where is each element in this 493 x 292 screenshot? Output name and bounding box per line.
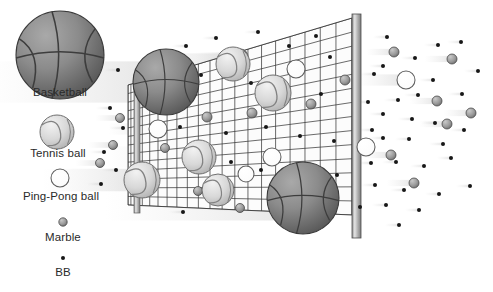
marble-icon [466,108,476,118]
motion-trail [369,113,383,116]
bb-icon [259,168,263,172]
bb-icon [184,44,188,48]
marble-icon [432,96,442,106]
bb-icon [319,92,323,96]
motion-trail [384,99,398,102]
ping-pong-ball-icon [263,148,281,166]
bb-icon [61,256,65,260]
motion-trail [96,107,110,110]
ping-pong-ball-icon [287,60,305,78]
motion-trail [369,137,383,140]
legend-glyphs [16,11,104,260]
marble-icon [236,204,245,213]
bb-icon [397,223,401,227]
bb-icon [460,92,464,96]
bb-icon [369,161,373,165]
motion-trail [385,224,399,227]
bb-icon [410,117,414,121]
bb-icon [459,40,463,44]
bb-icon [264,125,268,129]
legend-label-ping-pong-ball: Ping-Pong ball [0,190,122,203]
motion-trail [404,94,418,97]
bb-icon [433,121,437,125]
bb-icon [416,93,420,97]
bb-icon [468,184,472,188]
bb-icon [229,160,233,164]
motion-trail [202,37,216,40]
ping-pong-ball-icon [357,138,375,156]
bb-icon [298,134,302,138]
marble-icon [389,47,399,57]
bb-icon [372,72,376,76]
motion-trail [382,161,396,164]
bb-icon [394,160,398,164]
motion-trail [401,57,415,60]
bb-icon [384,203,388,207]
bb-icon [287,44,291,48]
bb-icon [328,55,332,59]
bb-icon [449,156,453,160]
ping-pong-ball-icon [51,169,69,187]
motion-trail [450,129,464,132]
bb-icon [99,182,103,186]
legend-label-basketball: Basketball [0,86,120,99]
motion-trail [361,184,375,187]
bb-icon [332,139,336,143]
motion-trail [395,138,409,141]
marble-icon [386,150,396,160]
motion-trail [424,44,438,47]
bb-icon [373,183,377,187]
bb-icon [441,142,445,146]
marble-icon [59,218,67,226]
marble-icon [442,119,452,129]
bb-icon [422,164,426,168]
motion-trail [405,209,419,212]
motion-trail [448,93,462,96]
illustration-svg [0,0,493,292]
marble-icon [247,108,257,118]
bb-icon [256,30,260,34]
motion-trail [437,157,451,160]
bb-icon [366,100,370,104]
ping-pong-ball-icon [238,166,254,182]
motion-trail [429,143,443,146]
motion-trail [398,118,412,121]
marble-icon [447,54,457,64]
motion-trail [244,31,258,34]
net-post-right [352,14,361,238]
bb-icon [431,78,435,82]
figure-canvas: Basketball Tennis ball Ping-Pong ball Ma… [0,0,493,292]
legend-label-marble: Marble [0,231,126,244]
bb-icon [436,43,440,47]
motion-trail [421,122,435,125]
motion-trail [360,73,374,76]
bb-icon [121,126,125,130]
bb-icon [114,168,118,172]
bb-icon [396,98,400,102]
net-post-right-shaft [352,14,361,238]
motion-trail [419,79,433,82]
bb-icon [224,131,228,135]
marble-icon [161,144,170,153]
motion-trail [172,45,186,48]
legend-label-bb: BB [0,266,126,279]
marble-icon [116,114,125,123]
legend-label-tennis-ball: Tennis ball [0,147,116,160]
bb-icon [314,34,318,38]
bb-icon [199,73,203,77]
marble-icon [409,178,419,188]
bb-icon [417,208,421,212]
bb-icon [407,137,411,141]
motion-trail [390,189,404,192]
motion-trail [373,36,387,39]
bb-icon [249,81,253,85]
bb-icon [178,125,182,129]
motion-trail [410,165,424,168]
motion-trail [464,70,478,73]
bb-icon [462,128,466,132]
bb-icon [437,192,441,196]
ping-pong-ball-icon [149,120,167,138]
bb-icon [335,173,339,177]
motion-trail [447,41,461,44]
bb-icon [381,112,385,116]
